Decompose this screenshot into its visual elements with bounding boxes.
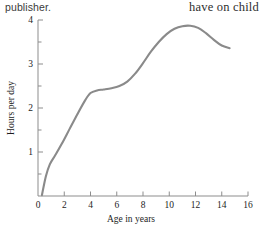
line-chart: 1234 0246810121416 Age in years Hours pe… bbox=[0, 0, 263, 233]
curve-path bbox=[42, 26, 230, 196]
x-tick-label: 6 bbox=[114, 200, 119, 210]
x-tick-label: 4 bbox=[88, 200, 93, 210]
x-tick-label: 8 bbox=[141, 200, 146, 210]
data-series-hours-per-day bbox=[42, 26, 230, 196]
y-axis-title: Hours per day bbox=[6, 81, 16, 135]
y-tick-label: 4 bbox=[28, 15, 33, 25]
x-tick-label: 10 bbox=[165, 200, 175, 210]
x-axis: 0246810121416 bbox=[36, 192, 253, 210]
x-tick-label: 14 bbox=[217, 200, 227, 210]
x-tick-label: 0 bbox=[36, 200, 41, 210]
x-tick-label: 16 bbox=[243, 200, 253, 210]
y-axis: 1234 bbox=[28, 15, 43, 196]
chart-svg: 1234 0246810121416 Age in years Hours pe… bbox=[0, 0, 263, 233]
x-axis-title: Age in years bbox=[107, 214, 155, 224]
x-tick-label: 2 bbox=[62, 200, 67, 210]
y-tick-label: 1 bbox=[28, 147, 33, 157]
y-tick-label: 3 bbox=[28, 59, 33, 69]
chart-page: publisher. have on child 1234 0246810121… bbox=[0, 0, 263, 233]
x-tick-label: 12 bbox=[191, 200, 201, 210]
y-tick-label: 2 bbox=[28, 103, 33, 113]
